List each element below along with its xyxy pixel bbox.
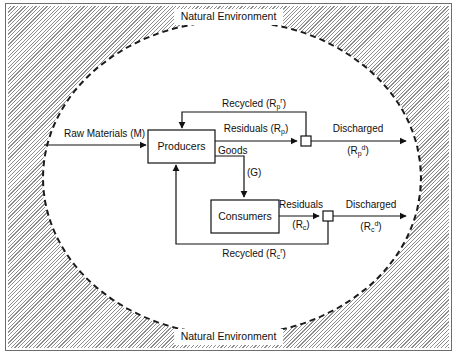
node-consumers-label: Consumers (218, 210, 272, 222)
junction-consumer-node (323, 211, 333, 221)
flow-producer-discharged-symbol: (Rpd) (347, 144, 369, 158)
material-balance-diagram: Raw Materials (M) Producers Residuals (R… (6, 4, 452, 351)
flow-producer-discharged-label: Discharged (333, 123, 384, 134)
flow-goods-symbol: (G) (247, 167, 261, 178)
flow-consumer-discharged-symbol: (Rcd) (360, 220, 381, 233)
node-producers-label: Producers (158, 140, 206, 152)
figure-frame: Natural Environment Natural Environment … (5, 3, 452, 351)
flow-consumer-residuals-label: Residuals (279, 199, 323, 210)
flow-raw-materials-label: Raw Materials (M) (64, 128, 145, 139)
figure-canvas: Natural Environment Natural Environment … (0, 0, 457, 358)
flow-goods-path (215, 156, 244, 197)
flow-producer-residuals-label: Residuals (Rp) (224, 123, 289, 136)
flow-producer-recycled-label: Recycled (Rpr) (222, 97, 286, 111)
flow-consumer-discharged-label: Discharged (346, 199, 397, 210)
flow-consumer-recycled-label: Recycled (Rcr) (222, 247, 286, 260)
junction-producer-node (301, 136, 311, 146)
flow-goods-label: Goods (218, 145, 247, 156)
flow-consumer-residuals-symbol: (Rc) (292, 219, 309, 231)
